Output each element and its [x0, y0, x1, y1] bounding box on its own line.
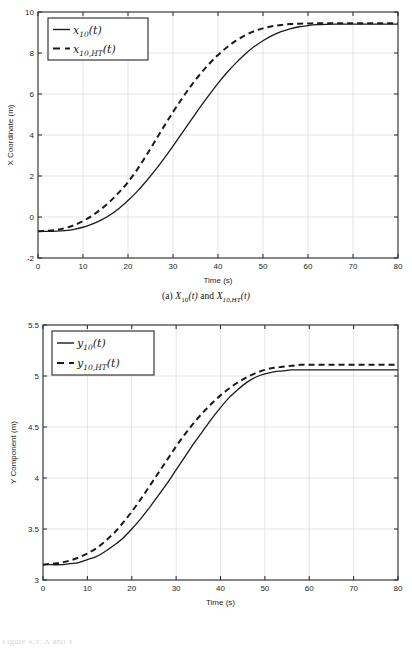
x-tick-label: 20: [124, 262, 133, 271]
y-tick-label: 5: [35, 372, 40, 381]
x-axis-title: Time (s): [203, 276, 232, 285]
legend: y10(t)y10,HT(t): [52, 331, 154, 375]
x-tick-label: 50: [259, 262, 268, 271]
y-tick-label: 4: [35, 474, 40, 483]
legend-label-arg: (t): [107, 357, 120, 370]
chart-b-svg: 0102030405060708033.544.555.5Time (s)Y C…: [0, 315, 412, 611]
figure-panel-a: 01020304050607080-20246810Time (s)X Coor…: [0, 0, 412, 315]
x-tick-label: 30: [172, 584, 181, 593]
x-tick-label: 80: [394, 262, 403, 271]
x-tick-label: 80: [394, 584, 403, 593]
x-tick-label: 70: [349, 262, 358, 271]
y-tick-label: -2: [27, 254, 35, 263]
legend-label-arg: (t): [89, 24, 102, 37]
x-tick-label: 40: [216, 584, 225, 593]
subcaption-a: (a) X10(t) and X10,HT(t): [0, 291, 412, 304]
subcaption-a-arg1: (t): [188, 291, 197, 301]
subcaption-a-conj: and: [200, 291, 214, 301]
x-axis-title: Time (s): [206, 598, 235, 607]
x-tick-label: 0: [36, 262, 41, 271]
x-tick-label: 10: [83, 584, 92, 593]
x-tick-label: 60: [304, 262, 313, 271]
y-tick-label: 8: [30, 49, 35, 58]
x-tick-label: 50: [260, 584, 269, 593]
y-tick-label: 0: [30, 213, 35, 222]
legend: x10(t)x10,HT(t): [48, 18, 148, 60]
figure-panel-b: 0102030405060708033.544.555.5Time (s)Y C…: [0, 315, 412, 649]
plot-area-b: 0102030405060708033.544.555.5Time (s)Y C…: [0, 315, 412, 611]
y-tick-label: 2: [30, 172, 35, 181]
subcaption-a-sub2: 10,HT: [223, 296, 241, 304]
page-bottom-cut-text: Figure 4.9: X and Y: [0, 640, 412, 649]
legend-label-sub: 10,HT: [83, 363, 107, 372]
legend-label-arg: (t): [103, 43, 116, 56]
y-tick-label: 4.5: [28, 423, 40, 432]
y-tick-label: 10: [25, 8, 34, 17]
y-axis-title: Y Component (m): [9, 421, 18, 484]
x-tick-label: 10: [79, 262, 88, 271]
y-axis-title: X Coordinate (m): [6, 104, 15, 165]
x-tick-label: 30: [169, 262, 178, 271]
x-tick-label: 60: [305, 584, 314, 593]
subcaption-a-arg2: (t): [241, 291, 250, 301]
legend-label-sub: 10,HT: [79, 49, 103, 58]
subcaption-a-prefix: (a): [162, 291, 173, 301]
y-tick-label: 3: [35, 576, 40, 585]
x-tick-label: 40: [214, 262, 223, 271]
x-tick-label: 70: [349, 584, 358, 593]
ghost-caption: Figure 4.9: X and Y: [2, 640, 412, 646]
legend-label-sub: 10: [83, 343, 93, 352]
x-tick-label: 0: [41, 584, 46, 593]
y-tick-label: 3.5: [28, 525, 40, 534]
y-tick-label: 6: [30, 90, 35, 99]
legend-label-arg: (t): [93, 337, 106, 350]
legend-label-sub: 10: [79, 30, 89, 39]
y-tick-label: 5.5: [28, 321, 40, 330]
y-tick-label: 4: [30, 131, 35, 140]
chart-a-svg: 01020304050607080-20246810Time (s)X Coor…: [0, 0, 412, 290]
plot-area-a: 01020304050607080-20246810Time (s)X Coor…: [0, 0, 412, 290]
x-tick-label: 20: [127, 584, 136, 593]
